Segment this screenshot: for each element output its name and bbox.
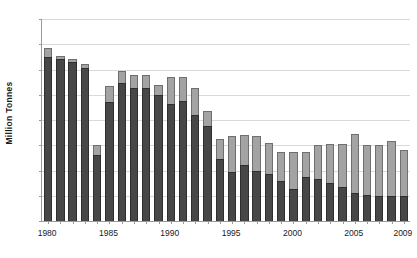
y-axis-tick-mark: [39, 171, 42, 172]
x-axis-tick-mark: [306, 221, 307, 224]
x-axis-tick-mark: [195, 221, 196, 224]
bar-segment-lower-segment: [277, 181, 285, 221]
bar[interactable]: [56, 56, 64, 221]
bar[interactable]: [154, 85, 162, 221]
bar[interactable]: [228, 136, 236, 221]
bar-segment-upper-segment: [326, 144, 334, 183]
bar-segment-upper-segment: [400, 150, 408, 195]
y-axis-tick-mark: [39, 145, 42, 146]
x-axis-tick-mark: [244, 221, 245, 224]
bar-segment-lower-segment: [314, 179, 322, 221]
bar-segment-upper-segment: [363, 145, 371, 194]
x-axis-tick-mark: [281, 221, 282, 224]
bar-segment-upper-segment: [203, 111, 211, 126]
x-axis-tick-mark: [343, 221, 344, 224]
x-axis-tick-mark: [159, 221, 160, 224]
bar-segment-lower-segment: [216, 159, 224, 221]
x-axis-tick-mark: [60, 221, 61, 224]
bar[interactable]: [68, 59, 76, 221]
gridline: [42, 19, 410, 20]
bar-segment-lower-segment: [252, 171, 260, 222]
bar[interactable]: [44, 48, 52, 221]
bar-segment-upper-segment: [387, 141, 395, 195]
x-axis-tick-label: 2000: [283, 228, 302, 238]
bar-segment-lower-segment: [387, 196, 395, 221]
bar-segment-lower-segment: [351, 193, 359, 221]
bar-segment-upper-segment: [216, 139, 224, 159]
y-axis-title: Million Tonnes: [0, 0, 18, 225]
x-axis-tick-mark: [257, 221, 258, 224]
bar-segment-upper-segment: [93, 145, 101, 155]
bar-segment-lower-segment: [191, 115, 199, 221]
bar[interactable]: [105, 86, 113, 221]
bar[interactable]: [81, 64, 89, 221]
x-axis-tick-mark: [232, 221, 233, 224]
bar-segment-upper-segment: [265, 143, 273, 175]
x-axis-tick-mark: [220, 221, 221, 224]
bar-segment-lower-segment: [228, 172, 236, 221]
bar-segment-upper-segment: [289, 152, 297, 190]
bar[interactable]: [302, 152, 310, 221]
bar[interactable]: [338, 144, 346, 221]
bar-segment-upper-segment: [277, 152, 285, 181]
bar[interactable]: [375, 145, 383, 221]
bar-segment-lower-segment: [44, 57, 52, 221]
bar[interactable]: [252, 136, 260, 221]
bar[interactable]: [277, 152, 285, 221]
x-axis-tick-mark: [330, 221, 331, 224]
bar-segment-upper-segment: [338, 144, 346, 187]
x-axis-tick-mark: [379, 221, 380, 224]
bar-segment-lower-segment: [375, 196, 383, 221]
x-axis-tick-label: 1980: [38, 228, 57, 238]
bar-segment-lower-segment: [130, 88, 138, 221]
bar-segment-upper-segment: [375, 145, 383, 196]
x-axis-tick-label: 1995: [222, 228, 241, 238]
bar[interactable]: [289, 152, 297, 221]
bar-segment-upper-segment: [105, 86, 113, 102]
bar-segment-lower-segment: [179, 101, 187, 221]
bar[interactable]: [363, 145, 371, 221]
bar-segment-upper-segment: [118, 71, 126, 84]
bar-segment-lower-segment: [142, 88, 150, 221]
bar[interactable]: [118, 71, 126, 221]
bar[interactable]: [179, 77, 187, 221]
bar[interactable]: [203, 111, 211, 221]
x-axis-tick-mark: [85, 221, 86, 224]
bar[interactable]: [387, 141, 395, 221]
bar-segment-lower-segment: [265, 174, 273, 221]
plot-area: [41, 19, 410, 222]
bar[interactable]: [326, 144, 334, 221]
bar-segment-lower-segment: [68, 62, 76, 221]
x-axis-tick-mark: [355, 221, 356, 224]
x-axis-tick-mark: [134, 221, 135, 224]
bar[interactable]: [240, 135, 248, 221]
x-axis-tick-label: 2009: [393, 228, 412, 238]
bar[interactable]: [142, 75, 150, 221]
x-axis-tick-mark: [109, 221, 110, 224]
x-axis-tick-mark: [293, 221, 294, 224]
bar-segment-lower-segment: [167, 104, 175, 221]
bar[interactable]: [167, 77, 175, 221]
bar[interactable]: [314, 145, 322, 221]
y-axis-tick-mark: [39, 44, 42, 45]
bar-segment-upper-segment: [130, 75, 138, 89]
bar-segment-lower-segment: [240, 165, 248, 221]
bar-segment-upper-segment: [179, 77, 187, 101]
bar-segment-upper-segment: [228, 136, 236, 171]
bar[interactable]: [216, 139, 224, 221]
x-axis-tick-mark: [404, 221, 405, 224]
y-axis-tick-mark: [39, 70, 42, 71]
bar[interactable]: [130, 75, 138, 221]
bar[interactable]: [265, 143, 273, 221]
bar[interactable]: [351, 134, 359, 221]
bar[interactable]: [191, 88, 199, 221]
bar-segment-lower-segment: [118, 83, 126, 221]
y-axis-tick-mark: [39, 95, 42, 96]
bar-segment-lower-segment: [400, 196, 408, 221]
bar[interactable]: [93, 145, 101, 221]
bar[interactable]: [400, 150, 408, 221]
bar-segment-lower-segment: [363, 195, 371, 222]
bar-segment-upper-segment: [351, 134, 359, 193]
bar-segment-lower-segment: [302, 177, 310, 221]
bar-segment-upper-segment: [252, 136, 260, 170]
